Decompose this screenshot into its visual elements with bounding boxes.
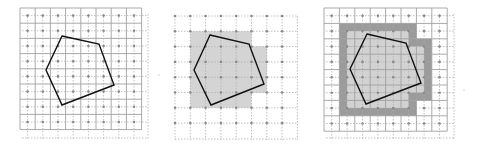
stray-mark: [463, 89, 465, 91]
panel-dilated-cells: [320, 0, 484, 146]
grid-diagram-2: [160, 0, 320, 146]
solid-grid: [20, 8, 142, 130]
covered-cells-fill: [190, 31, 266, 108]
grid-diagram-1: [0, 0, 160, 146]
panel-polygon-over-grid: [0, 0, 160, 146]
dotted-grid: [22, 14, 148, 139]
panel-covered-cells: [160, 0, 320, 146]
grid-diagram-3: [320, 0, 484, 146]
